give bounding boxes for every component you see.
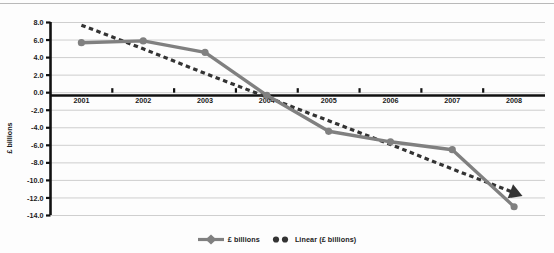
y-tick-label: -12.0 [27, 194, 43, 203]
y-tick-label: -2.0 [31, 106, 43, 115]
legend-label-data-series: £ billions [228, 235, 260, 244]
y-axis-title: £ billions [5, 122, 14, 153]
y-tick-label: -4.0 [31, 123, 43, 132]
data-series-markers [78, 37, 518, 210]
line-diamond-marker-icon [198, 234, 224, 245]
y-tick-label: 8.0 [34, 18, 44, 27]
data-point-marker [201, 49, 208, 56]
x-tick-label: 2005 [321, 96, 337, 105]
y-tick-label: -14.0 [27, 211, 43, 220]
y-tick-label: 6.0 [34, 36, 44, 45]
y-tick-label: -8.0 [31, 158, 43, 167]
x-tick-label: 2008 [506, 96, 522, 105]
y-tick-label: -6.0 [31, 141, 43, 150]
legend-item-trendline[interactable]: Linear (£ billions) [271, 234, 356, 245]
x-tick-label: 2002 [135, 96, 151, 105]
chart-container: 8.06.04.02.00.0-2.0-4.0-6.0-8.0-10.0-12.… [0, 0, 554, 253]
data-series-line [81, 41, 514, 207]
line-chart-plot: 8.06.04.02.00.0-2.0-4.0-6.0-8.0-10.0-12.… [0, 0, 554, 253]
data-point-marker [510, 203, 517, 210]
legend-label-trendline: Linear (£ billions) [295, 235, 356, 244]
data-point-marker [325, 128, 332, 135]
x-tick-label: 2001 [73, 96, 89, 105]
trendline-linear-series [81, 25, 514, 193]
x-tick-mark-group [112, 88, 483, 93]
y-tick-label: 4.0 [34, 53, 44, 62]
x-tick-label: 2006 [382, 96, 398, 105]
data-point-marker [140, 37, 147, 44]
legend-item-data-series[interactable]: £ billions [198, 234, 260, 245]
data-point-marker [449, 146, 456, 153]
chart-legend: £ billions Linear (£ billions) [0, 234, 554, 245]
data-point-marker [78, 39, 85, 46]
x-axis-tick-labels: 20012002200320042005200620072008 [73, 96, 522, 105]
y-axis-tick-labels: 8.06.04.02.00.0-2.0-4.0-6.0-8.0-10.0-12.… [27, 18, 43, 220]
data-point-marker [263, 92, 270, 99]
y-tick-label: 0.0 [34, 88, 44, 97]
x-tick-label: 2003 [197, 96, 213, 105]
gridline-group [51, 23, 546, 216]
data-point-marker [387, 138, 394, 145]
dashed-dots-marker-icon [271, 234, 291, 245]
y-tick-label: 2.0 [34, 71, 44, 80]
y-tick-label: -10.0 [27, 176, 43, 185]
x-tick-label: 2007 [444, 96, 460, 105]
